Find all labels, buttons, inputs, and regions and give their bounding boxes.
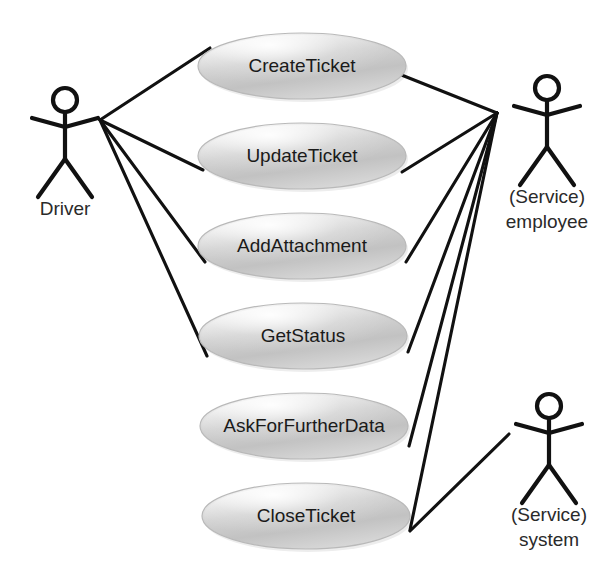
actor-head: [537, 394, 561, 418]
actor-left-leg: [520, 147, 547, 185]
association-service-employee-to-close-ticket[interactable]: [410, 113, 497, 530]
use-case-label: CloseTicket: [257, 505, 356, 526]
actor-left-leg: [522, 465, 549, 503]
actor-right-leg: [549, 465, 576, 503]
actor-left-arm: [32, 118, 65, 127]
association-service-system-to-close-ticket[interactable]: [410, 434, 509, 531]
association-driver-to-update-ticket[interactable]: [100, 120, 203, 170]
actor-label-line: employee: [506, 211, 588, 232]
diagram-svg: CreateTicketUpdateTicketAddAttachmentGet…: [0, 0, 613, 579]
use-case-label: AddAttachment: [237, 235, 368, 256]
association-line: [409, 113, 497, 446]
actor-service-employee[interactable]: (Service)employee: [506, 76, 588, 232]
association-line: [399, 74, 497, 113]
actor-right-arm: [65, 118, 98, 127]
actor-left-arm: [514, 106, 547, 115]
use-case-add-attachment[interactable]: AddAttachment: [198, 213, 408, 282]
use-case-create-ticket[interactable]: CreateTicket: [198, 33, 408, 102]
actor-right-leg: [65, 159, 92, 197]
association-line: [100, 48, 210, 120]
use-case-label: AskForFurtherData: [223, 415, 385, 436]
association-service-employee-to-ask-for-further-data[interactable]: [409, 113, 497, 446]
use-case-close-ticket[interactable]: CloseTicket: [202, 483, 412, 552]
actor-label-line: (Service): [511, 504, 587, 525]
actor-label-line: (Service): [509, 186, 585, 207]
use-case-label: CreateTicket: [249, 55, 357, 76]
association-line: [100, 120, 203, 170]
use-case-diagram-canvas: CreateTicketUpdateTicketAddAttachmentGet…: [0, 0, 613, 579]
association-line: [408, 113, 497, 352]
actor-label-line: system: [519, 529, 579, 550]
association-line: [100, 120, 205, 262]
actor-driver[interactable]: Driver: [32, 88, 98, 219]
use-case-ellipses-layer: CreateTicketUpdateTicketAddAttachmentGet…: [198, 33, 412, 552]
use-case-update-ticket[interactable]: UpdateTicket: [198, 123, 408, 192]
association-service-employee-to-add-attachment[interactable]: [406, 113, 497, 262]
use-case-get-status[interactable]: GetStatus: [199, 303, 409, 372]
use-case-label: GetStatus: [261, 325, 346, 346]
actor-service-system[interactable]: (Service)system: [511, 394, 587, 550]
association-driver-to-get-status[interactable]: [100, 120, 207, 356]
association-service-employee-to-get-status[interactable]: [408, 113, 497, 352]
actor-right-arm: [547, 106, 580, 115]
use-case-ask-for-further-data[interactable]: AskForFurtherData: [200, 393, 410, 462]
association-driver-to-add-attachment[interactable]: [100, 120, 205, 262]
actor-head: [53, 88, 77, 112]
association-line: [100, 120, 207, 356]
actor-label-line: Driver: [40, 198, 91, 219]
actor-right-arm: [549, 424, 582, 433]
actor-head: [535, 76, 559, 100]
actor-right-leg: [547, 147, 574, 185]
use-case-label: UpdateTicket: [246, 145, 358, 166]
association-line: [406, 113, 497, 262]
association-line: [410, 434, 509, 531]
actor-left-leg: [38, 159, 65, 197]
association-service-employee-to-create-ticket[interactable]: [399, 74, 497, 113]
association-driver-to-create-ticket[interactable]: [100, 48, 210, 120]
association-line: [410, 113, 497, 530]
actor-left-arm: [516, 424, 549, 433]
